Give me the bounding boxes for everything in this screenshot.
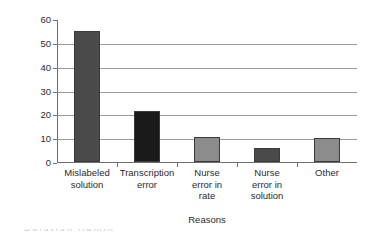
gridline <box>57 115 357 116</box>
x-category-label-line: Nurse <box>177 167 237 179</box>
x-category-label-line: Mislabeled <box>57 167 117 179</box>
x-category-label-line: Transcription <box>117 167 177 179</box>
x-axis-title: Reasons <box>57 214 357 225</box>
x-category-label: Nurseerror inrate <box>177 167 237 202</box>
y-tick-label: 0 <box>46 158 51 168</box>
y-tick-label: 60 <box>40 15 51 25</box>
y-tick-mark <box>53 115 57 116</box>
x-category-label: Mislabeledsolution <box>57 167 117 190</box>
bar-chart-figure: Percent frequency 0102030405060 Mislabel… <box>0 0 373 237</box>
x-category-label-line: rate <box>177 190 237 202</box>
cropped-caption-strip: Solution Admin <box>0 229 373 237</box>
y-tick-label: 20 <box>40 111 51 121</box>
y-tick-label: 40 <box>40 63 51 73</box>
x-category-label: Other <box>297 167 357 179</box>
y-tick-mark <box>53 139 57 140</box>
gridline <box>57 92 357 93</box>
x-category-label-line: error in <box>177 179 237 191</box>
caption-fragment: Solution Admin <box>24 229 364 233</box>
x-category-label-line: solution <box>237 190 297 202</box>
plot-area: 0102030405060 <box>57 20 357 163</box>
y-tick-label: 10 <box>40 134 51 144</box>
y-tick-mark <box>53 44 57 45</box>
bar <box>74 31 100 162</box>
y-tick-mark <box>53 163 57 164</box>
x-category-label-line: error <box>117 179 177 191</box>
gridline <box>57 44 357 45</box>
bar <box>254 148 280 162</box>
x-category-label-line: error in <box>237 179 297 191</box>
y-tick-mark <box>53 92 57 93</box>
x-category-label: Nurseerror insolution <box>237 167 297 202</box>
x-category-label-line: solution <box>57 179 117 191</box>
bar <box>194 137 220 162</box>
bar <box>314 138 340 162</box>
bar <box>134 111 160 162</box>
gridline <box>57 68 357 69</box>
x-category-label: Transcriptionerror <box>117 167 177 190</box>
y-tick-mark <box>53 68 57 69</box>
y-tick-label: 30 <box>40 87 51 97</box>
y-tick-mark <box>53 20 57 21</box>
x-category-label-line: Other <box>297 167 357 179</box>
x-category-label-line: Nurse <box>237 167 297 179</box>
x-axis-category-labels: MislabeledsolutionTranscriptionerrorNurs… <box>57 167 357 209</box>
y-tick-label: 50 <box>40 39 51 49</box>
